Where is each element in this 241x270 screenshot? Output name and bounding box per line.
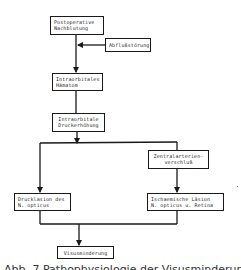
scan-artifact-dot: [237, 186, 238, 187]
node-postoperative-nachblutung: Postoperative Nachblutung: [50, 16, 104, 35]
node-ischaemische-laesion: Ischaemische Läsion N. opticus u. Retina: [147, 193, 224, 211]
node-intraorbitale-druckerhoehung: Intraorbitale Druckerhöhung: [52, 113, 105, 132]
node-drucklaesion-n-opticus: Drucklasion des N. opticus: [14, 193, 71, 211]
node-abflussstoerung: Abflußstörung: [105, 38, 151, 52]
node-visusminderung: Visusminderung: [57, 246, 114, 259]
figure-caption: Abb. 7 Pathophysiologie der Visusminderu…: [4, 262, 241, 270]
node-intraorbitales-haematom: Intraorbitales Hämatom: [52, 73, 103, 91]
node-zentralarterienverschluss: Zentralarterien- verschluß: [148, 150, 209, 169]
